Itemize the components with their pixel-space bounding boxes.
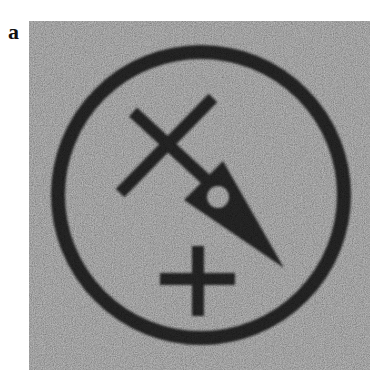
wedge-hole [207,186,229,208]
plus-horizontal-bar [160,273,235,285]
noisy-test-image [29,21,370,370]
panel-label: a [8,21,19,43]
test-image-canvas [29,21,370,370]
